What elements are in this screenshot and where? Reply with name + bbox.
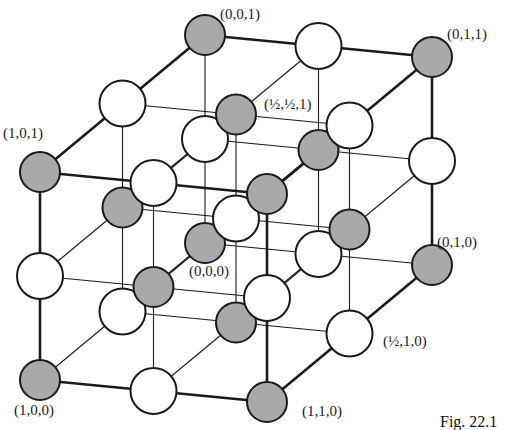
- shaded-ion-sphere: [20, 152, 60, 192]
- shaded-ion-sphere: [134, 267, 174, 307]
- shaded-ion-sphere: [216, 95, 256, 135]
- open-ion-sphere: [131, 160, 177, 206]
- coordinate-label: (½,½,1): [264, 96, 312, 113]
- lattice-spheres: [17, 15, 455, 422]
- coordinate-label: (½,1,0): [383, 333, 427, 350]
- shaded-ion-sphere: [247, 174, 287, 214]
- shaded-ion-sphere: [330, 210, 370, 250]
- shaded-ion-sphere: [412, 37, 452, 77]
- open-ion-sphere: [131, 368, 177, 414]
- open-ion-sphere: [327, 311, 373, 357]
- shaded-ion-sphere: [185, 15, 225, 55]
- shaded-ion-sphere: [247, 382, 287, 422]
- open-ion-sphere: [409, 138, 455, 184]
- coordinate-label: (0,1,1): [447, 26, 487, 43]
- open-ion-sphere: [296, 23, 342, 69]
- coordinate-label: (1,0,0): [14, 402, 54, 419]
- open-ion-sphere: [100, 81, 146, 127]
- nacl-lattice-diagram: (0,0,1)(0,1,1)(1,0,1)(½,½,1)(0,1,0)(0,0,…: [0, 0, 510, 430]
- open-ion-sphere: [327, 103, 373, 149]
- shaded-ion-sphere: [412, 245, 452, 285]
- coordinate-label: (0,1,0): [437, 234, 477, 251]
- coordinate-label: (0,0,0): [189, 263, 229, 280]
- coordinate-label: (1,1,0): [302, 403, 342, 420]
- open-ion-sphere: [17, 253, 63, 299]
- coordinate-label: (1,0,1): [3, 125, 43, 142]
- coordinate-label: (0,0,1): [220, 6, 260, 23]
- shaded-ion-sphere: [20, 360, 60, 400]
- open-ion-sphere: [244, 275, 290, 321]
- figure-caption: Fig. 22.1: [440, 413, 497, 430]
